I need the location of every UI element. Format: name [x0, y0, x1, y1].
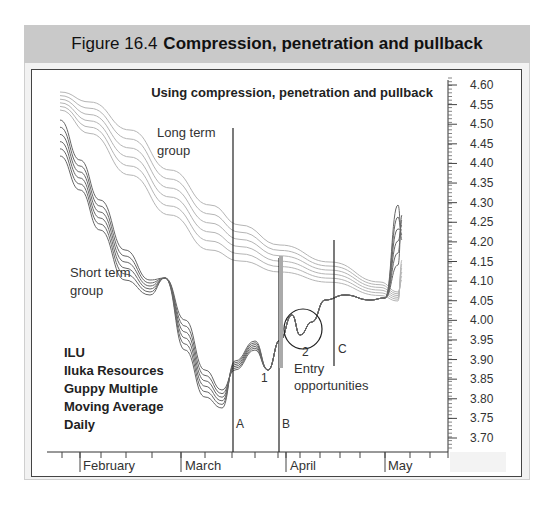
y-tick-label: 4.55	[470, 98, 494, 112]
short-term-label-1: Short term	[70, 265, 131, 280]
y-tick-label: 4.30	[470, 196, 494, 210]
info-indicator-1: Guppy Multiple	[64, 381, 158, 396]
y-minor-ticks	[448, 78, 452, 448]
y-tick-label: 3.85	[470, 372, 494, 386]
long-term-label-1: Long term	[157, 125, 216, 140]
y-tick-label: 4.40	[470, 156, 494, 170]
y-tick-label: 4.10	[470, 274, 494, 288]
y-tick-label: 3.70	[470, 431, 494, 445]
y-tick-label: 4.25	[470, 215, 494, 229]
y-tick-label: 3.75	[470, 411, 494, 425]
x-label-may: May	[388, 458, 413, 473]
info-block: ILU Iluka Resources Guppy Multiple Movin…	[64, 345, 164, 432]
marker-label-a: A	[236, 417, 244, 431]
y-tick-label: 3.95	[470, 333, 494, 347]
y-tick-label: 4.15	[470, 255, 494, 269]
y-tick-label: 3.80	[470, 392, 494, 406]
y-tick-label: 4.45	[470, 137, 494, 151]
marker-label-c: C	[338, 342, 347, 356]
y-tick-label: 4.05	[470, 294, 494, 308]
point-label-1: 1	[261, 371, 268, 385]
y-tick-label: 4.50	[470, 117, 494, 131]
info-ticker: ILU	[64, 345, 85, 360]
entry-label-1: Entry	[294, 361, 325, 376]
y-tick-label: 3.90	[470, 353, 494, 367]
short-term-label-2: group	[70, 283, 103, 298]
info-company: Iluka Resources	[64, 363, 164, 378]
y-tick-label: 4.35	[470, 176, 494, 190]
x-label-february: February	[83, 458, 136, 473]
x-label-march: March	[185, 458, 221, 473]
chart-svg: 4.604.554.504.454.404.354.304.254.204.15…	[0, 0, 553, 511]
info-indicator-2: Moving Average	[64, 399, 163, 414]
chart-title: Using compression, penetration and pullb…	[151, 85, 433, 100]
penetration-bar	[279, 256, 283, 368]
entry-label-2: opportunities	[294, 378, 369, 393]
x-label-april: April	[290, 458, 316, 473]
info-timeframe: Daily	[64, 417, 96, 432]
y-tick-label: 4.20	[470, 235, 494, 249]
y-tick-labels: 4.604.554.504.454.404.354.304.254.204.15…	[448, 78, 494, 445]
y-tick-label: 4.60	[470, 78, 494, 92]
corner-blank	[450, 452, 506, 472]
long-term-label-2: group	[157, 143, 190, 158]
point-label-2: 2	[302, 345, 309, 359]
marker-label-b: B	[282, 417, 290, 431]
entry-circle	[284, 309, 322, 349]
y-tick-label: 4.00	[470, 313, 494, 327]
